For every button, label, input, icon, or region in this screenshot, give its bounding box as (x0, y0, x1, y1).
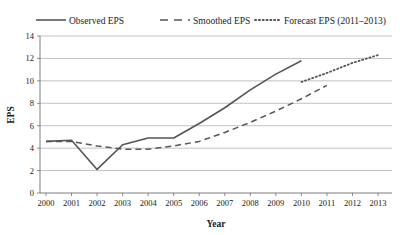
x-tick-label: 2012 (344, 198, 361, 208)
series-line-dashed (46, 85, 327, 149)
chart-legend: Observed EPSSmoothed EPSForecast EPS (20… (36, 16, 386, 27)
x-tick-label: 2000 (38, 198, 55, 208)
x-tick-label: 2002 (89, 198, 106, 208)
legend-label: Forecast EPS (2011–2013) (284, 16, 386, 27)
y-tick-label: 10 (26, 76, 35, 86)
x-tick-label: 2001 (63, 198, 80, 208)
y-tick-label: 12 (26, 53, 35, 63)
y-axis-ticks: 02468101214 (26, 31, 41, 198)
x-tick-label: 2011 (319, 198, 336, 208)
y-tick-label: 4 (30, 143, 35, 153)
x-tick-label: 2005 (165, 198, 182, 208)
legend-label: Observed EPS (69, 16, 124, 26)
y-tick-label: 8 (30, 98, 34, 108)
y-tick-label: 6 (30, 121, 34, 131)
x-tick-label: 2004 (140, 198, 158, 208)
legend-label: Smoothed EPS (193, 16, 250, 26)
chart-figure: Observed EPSSmoothed EPSForecast EPS (20… (0, 0, 407, 235)
y-tick-label: 0 (30, 188, 34, 198)
x-tick-label: 2007 (216, 198, 233, 208)
data-series (46, 55, 378, 169)
x-axis-title: Year (207, 219, 227, 229)
series-line-solid (46, 61, 301, 170)
x-tick-label: 2008 (242, 198, 259, 208)
series-line-dotted (301, 55, 378, 82)
gridlines (40, 36, 392, 171)
y-tick-label: 14 (26, 31, 35, 41)
x-tick-label: 2009 (267, 198, 284, 208)
y-axis-title: EPS (6, 106, 16, 123)
x-tick-label: 2010 (293, 198, 310, 208)
x-tick-label: 2003 (114, 198, 131, 208)
x-tick-label: 2013 (370, 198, 387, 208)
x-axis-ticks: 2000200120022003200420052006200720082009… (38, 193, 387, 208)
x-tick-label: 2006 (191, 198, 208, 208)
line-chart: Observed EPSSmoothed EPSForecast EPS (20… (0, 0, 407, 235)
y-tick-label: 2 (30, 166, 34, 176)
